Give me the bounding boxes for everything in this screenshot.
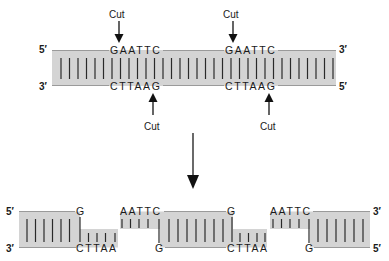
site2-bottom-cut-label: Cut xyxy=(260,121,276,132)
fragment1-bottom-overhang: CTTAA xyxy=(76,242,118,254)
site2-top-cut-label: Cut xyxy=(223,9,239,20)
site1-bottom-sequence: CTTAAG xyxy=(110,80,161,92)
fragment3-top-left-overhang: AATTC xyxy=(270,205,312,217)
fragment1-top-overhang: G xyxy=(76,205,86,217)
top-left-5prime-label: 5′ xyxy=(39,44,48,55)
fragment-3: AATTC G 3′ 5′ xyxy=(270,205,382,254)
up-arrow-icon xyxy=(149,93,158,115)
fragment-2: AATTC G G CTTAA xyxy=(120,205,269,254)
site2-bottom-sequence: CTTAAG xyxy=(225,80,276,92)
fragment1-5prime-label: 5′ xyxy=(6,206,15,217)
bottom-left-3prime-label: 3′ xyxy=(39,81,48,92)
intact-dna: 5′ 3′ 3′ 5′ GAATTC CTTAAG GAATTC CTTAAG … xyxy=(39,9,348,132)
site2-top-sequence: GAATTC xyxy=(225,44,276,56)
top-right-3prime-label: 3′ xyxy=(339,44,348,55)
site1-top-cut-label: Cut xyxy=(109,9,125,20)
fragment1-3prime-label: 3′ xyxy=(6,243,15,254)
down-arrow-icon xyxy=(229,21,238,43)
up-arrow-icon xyxy=(265,93,274,115)
restriction-digest-diagram: 5′ 3′ 3′ 5′ GAATTC CTTAAG GAATTC CTTAAG … xyxy=(0,0,389,261)
bottom-right-5prime-label: 5′ xyxy=(339,81,348,92)
fragment2-top-right: G xyxy=(227,205,237,217)
fragment3-bottom-left: G xyxy=(305,242,315,254)
fragment2-top-left-overhang: AATTC xyxy=(120,205,162,217)
fragment2-bottom-right-overhang: CTTAA xyxy=(227,242,269,254)
fragment3-3prime-label: 3′ xyxy=(373,206,382,217)
site1-top-sequence: GAATTC xyxy=(110,44,161,56)
fragment3-5prime-label: 5′ xyxy=(373,243,382,254)
fragment2-bottom-left: G xyxy=(155,242,165,254)
site1-bottom-cut-label: Cut xyxy=(144,121,160,132)
down-arrow-icon xyxy=(115,21,124,43)
fragment-1: 5′ 3′ G CTTAA xyxy=(6,205,118,254)
process-down-arrow-icon xyxy=(187,133,199,189)
